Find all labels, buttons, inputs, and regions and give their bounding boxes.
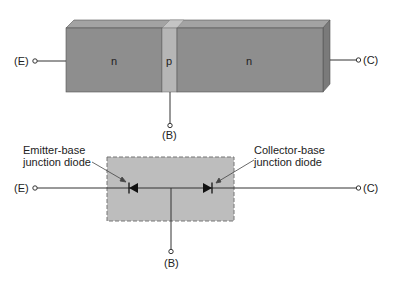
emitter-base-annotation-line2: junction diode — [23, 156, 91, 168]
block-top-face — [66, 20, 330, 28]
emitter-terminal-top — [33, 59, 37, 63]
base-terminal-bottom — [169, 249, 173, 253]
block-side-face — [323, 20, 330, 92]
base-region-label: p — [166, 55, 172, 67]
collector-label-top: (C) — [363, 54, 378, 66]
collector-base-annotation-line1: Collector-base — [254, 144, 325, 156]
emitter-base-annotation: Emitter-base junction diode — [23, 144, 91, 168]
emitter-region-label: n — [111, 55, 117, 67]
collector-region-label: n — [246, 55, 252, 67]
collector-terminal-top — [356, 58, 360, 62]
collector-base-annotation-line2: junction diode — [254, 156, 325, 168]
base-terminal-top — [168, 123, 172, 127]
collector-base-annotation: Collector-base junction diode — [254, 144, 325, 168]
emitter-base-annotation-line1: Emitter-base — [23, 144, 91, 156]
emitter-terminal-bottom — [33, 186, 37, 190]
npn-block — [66, 20, 330, 92]
collector-terminal-bottom — [356, 186, 360, 190]
base-label-bottom: (B) — [164, 257, 179, 269]
emitter-label-top: (E) — [14, 55, 29, 67]
base-label-top: (B) — [162, 129, 177, 141]
transistor-diagram — [0, 0, 396, 284]
emitter-label-bottom: (E) — [14, 182, 29, 194]
collector-label-bottom: (C) — [363, 182, 378, 194]
